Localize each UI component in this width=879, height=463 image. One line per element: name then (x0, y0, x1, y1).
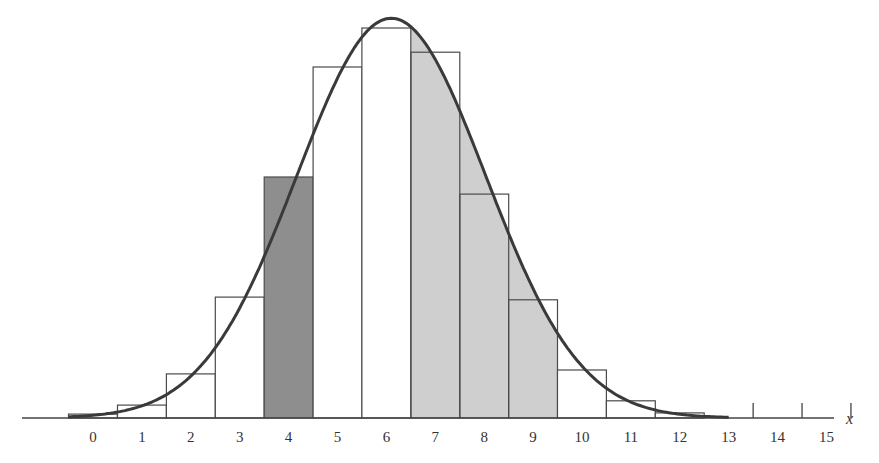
tick-label-12: 12 (672, 429, 687, 445)
x-axis-label: x (845, 410, 853, 427)
shaded-area-under-curve (411, 27, 558, 418)
tick-label-15: 15 (819, 429, 834, 445)
histogram-bar-2 (166, 374, 215, 418)
tick-label-4: 4 (285, 429, 293, 445)
histogram-bar-6 (362, 28, 411, 418)
tick-label-0: 0 (89, 429, 97, 445)
light-shaded-region (411, 27, 558, 418)
tick-label-1: 1 (138, 429, 146, 445)
tick-label-5: 5 (334, 429, 342, 445)
histogram-bars (69, 28, 705, 418)
histogram-chart: 0123456789101112131415 x (0, 0, 879, 463)
tick-label-3: 3 (236, 429, 244, 445)
tick-label-14: 14 (770, 429, 786, 445)
histogram-bar-3 (215, 297, 264, 418)
tick-label-8: 8 (480, 429, 488, 445)
histogram-bar-4 (264, 177, 313, 418)
tick-label-10: 10 (575, 429, 590, 445)
tick-label-2: 2 (187, 429, 195, 445)
x-axis-ticks (753, 403, 851, 418)
tick-label-11: 11 (624, 429, 638, 445)
tick-label-13: 13 (721, 429, 736, 445)
tick-label-9: 9 (529, 429, 537, 445)
x-axis-tick-labels: 0123456789101112131415 (89, 429, 834, 445)
tick-label-6: 6 (383, 429, 391, 445)
histogram-bar-10 (558, 370, 607, 418)
tick-label-7: 7 (432, 429, 440, 445)
